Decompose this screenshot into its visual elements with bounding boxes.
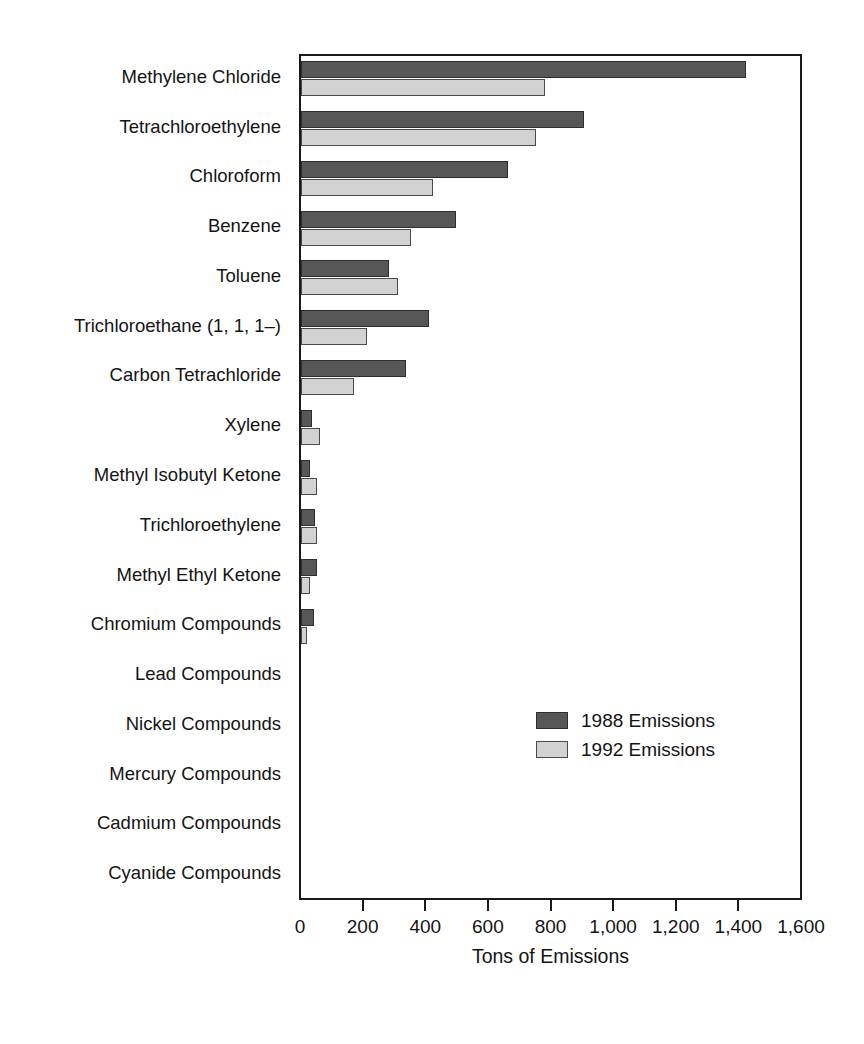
legend-label-1992: 1992 Emissions — [581, 739, 715, 761]
bar-1988 — [301, 360, 406, 377]
y-axis-label: Benzene — [0, 216, 291, 236]
bar-1988 — [301, 460, 310, 477]
category-row — [301, 559, 800, 594]
category-row — [301, 260, 800, 295]
bar-1988 — [301, 61, 746, 78]
x-axis-tick — [550, 900, 552, 911]
category-row — [301, 360, 800, 395]
y-axis-label: Methyl Ethyl Ketone — [0, 565, 291, 585]
y-axis-labels: Methylene ChlorideTetrachloroethyleneChl… — [0, 54, 291, 900]
y-axis-label: Chloroform — [0, 166, 291, 186]
bar-1988 — [301, 559, 317, 576]
bar-1992 — [301, 378, 354, 395]
y-axis-label: Methyl Isobutyl Ketone — [0, 465, 291, 485]
chart-legend: 1988 Emissions 1992 Emissions — [536, 706, 746, 764]
category-row — [301, 460, 800, 495]
x-axis-tick-label: 400 — [409, 915, 441, 939]
x-axis-tick — [487, 900, 489, 911]
legend-swatch-1988 — [536, 712, 568, 729]
x-axis-tick — [612, 900, 614, 911]
x-axis-tick-label: 200 — [347, 915, 379, 939]
legend-entry-1992: 1992 Emissions — [536, 735, 746, 764]
bar-1992 — [301, 428, 320, 445]
bar-1992 — [301, 129, 536, 146]
x-axis-ticks — [299, 900, 802, 912]
bar-1988 — [301, 310, 429, 327]
y-axis-label: Lead Compounds — [0, 664, 291, 684]
y-axis-label: Toluene — [0, 266, 291, 286]
bar-1988 — [301, 161, 508, 178]
x-axis-tick-label: 0 — [295, 915, 306, 939]
bar-1992 — [301, 478, 317, 495]
legend-label-1988: 1988 Emissions — [581, 710, 715, 732]
x-axis-tick-label: 1,200 — [652, 915, 700, 939]
bar-1988 — [301, 509, 315, 526]
emissions-bar-chart: Methylene ChlorideTetrachloroethyleneChl… — [0, 0, 864, 1044]
y-axis-label: Carbon Tetrachloride — [0, 365, 291, 385]
y-axis-label: Cyanide Compounds — [0, 863, 291, 883]
category-row — [301, 609, 800, 644]
bar-1988 — [301, 609, 314, 626]
bar-1988 — [301, 211, 456, 228]
y-axis-label: Trichloroethylene — [0, 515, 291, 535]
category-row — [301, 211, 800, 246]
y-axis-label: Methylene Chloride — [0, 67, 291, 87]
x-axis-tick-label: 800 — [535, 915, 567, 939]
bar-1992 — [301, 179, 433, 196]
y-axis-label: Xylene — [0, 415, 291, 435]
category-row — [301, 410, 800, 445]
bar-1992 — [301, 328, 367, 345]
x-axis-tick — [737, 900, 739, 911]
category-row — [301, 310, 800, 345]
y-axis-label: Cadmium Compounds — [0, 813, 291, 833]
x-axis-tick-label: 600 — [472, 915, 504, 939]
x-axis-tick-label: 1,400 — [715, 915, 763, 939]
category-row — [301, 659, 800, 694]
legend-entry-1988: 1988 Emissions — [536, 706, 746, 735]
y-axis-label: Trichloroethane (1, 1, 1–) — [0, 316, 291, 336]
y-axis-label: Mercury Compounds — [0, 764, 291, 784]
x-axis-title: Tons of Emissions — [299, 945, 802, 968]
bar-1988 — [301, 111, 584, 128]
x-axis-tick — [675, 900, 677, 911]
bar-1992 — [301, 627, 307, 644]
category-row — [301, 161, 800, 196]
bar-1988 — [301, 410, 312, 427]
y-axis-label: Tetrachloroethylene — [0, 117, 291, 137]
x-axis-tick-labels: 02004006008001,0001,2001,4001,600 — [299, 915, 802, 941]
bar-1988 — [301, 260, 389, 277]
bar-1992 — [301, 577, 310, 594]
x-axis-tick — [424, 900, 426, 911]
x-axis-tick-label: 1,000 — [589, 915, 637, 939]
category-row — [301, 61, 800, 96]
plot-area — [299, 54, 802, 900]
bar-1992 — [301, 229, 411, 246]
x-axis-tick-label: 1,600 — [777, 915, 825, 939]
category-row — [301, 858, 800, 893]
bar-1992 — [301, 79, 545, 96]
y-axis-label: Nickel Compounds — [0, 714, 291, 734]
x-axis-tick — [362, 900, 364, 911]
bar-1992 — [301, 278, 398, 295]
category-row — [301, 111, 800, 146]
category-row — [301, 509, 800, 544]
legend-swatch-1992 — [536, 741, 568, 758]
y-axis-label: Chromium Compounds — [0, 614, 291, 634]
category-row — [301, 808, 800, 843]
bar-1992 — [301, 527, 317, 544]
